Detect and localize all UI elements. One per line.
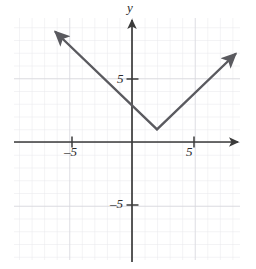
y-tick-label-neg5: –5 (110, 197, 123, 210)
coordinate-plane (0, 0, 256, 269)
x-tick-label-neg5: –5 (64, 145, 77, 158)
graph-figure: y –5 5 5 –5 (0, 0, 256, 269)
y-axis-label: y (127, 1, 133, 14)
y-tick-label-pos5: 5 (117, 72, 124, 85)
grid-layer (14, 18, 240, 260)
x-tick-label-pos5: 5 (186, 145, 193, 158)
